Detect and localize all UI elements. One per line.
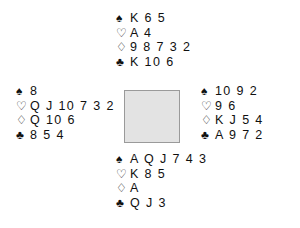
heart-icon: ♡ bbox=[201, 99, 213, 114]
north-clubs-cards: K 10 6 bbox=[128, 55, 175, 70]
west-spades-cards: 8 bbox=[28, 84, 38, 99]
spade-icon: ♠ bbox=[116, 11, 128, 26]
hand-north: ♠ K 6 5 ♡ A 4 ♢ 9 8 7 3 2 ♣ K 10 6 bbox=[116, 11, 191, 69]
north-spades-row: ♠ K 6 5 bbox=[116, 11, 191, 26]
heart-icon: ♡ bbox=[116, 26, 128, 41]
diamond-icon: ♢ bbox=[201, 113, 213, 128]
center-compass-box bbox=[124, 90, 180, 143]
east-hearts-cards: 9 6 bbox=[213, 99, 237, 114]
south-spades-cards: A Q J 7 4 3 bbox=[128, 152, 207, 167]
east-clubs-row: ♣ A 9 7 2 bbox=[201, 128, 264, 143]
spade-icon: ♠ bbox=[201, 84, 213, 99]
north-hearts-cards: A 4 bbox=[128, 26, 152, 41]
diamond-icon: ♢ bbox=[116, 40, 128, 55]
west-hearts-row: ♡ Q J 10 7 3 2 bbox=[16, 99, 115, 114]
north-diamonds-row: ♢ 9 8 7 3 2 bbox=[116, 40, 191, 55]
north-diamonds-cards: 9 8 7 3 2 bbox=[128, 40, 191, 55]
north-hearts-row: ♡ A 4 bbox=[116, 26, 191, 41]
club-icon: ♣ bbox=[201, 128, 213, 143]
west-clubs-row: ♣ 8 5 4 bbox=[16, 128, 115, 143]
east-hearts-row: ♡ 9 6 bbox=[201, 99, 264, 114]
west-spades-row: ♠ 8 bbox=[16, 84, 115, 99]
spade-icon: ♠ bbox=[116, 152, 128, 167]
west-hearts-cards: Q J 10 7 3 2 bbox=[28, 99, 115, 114]
west-diamonds-row: ♢ Q 10 6 bbox=[16, 113, 115, 128]
bridge-hand-diagram: ♠ K 6 5 ♡ A 4 ♢ 9 8 7 3 2 ♣ K 10 6 ♠ 8 ♡… bbox=[0, 0, 300, 228]
north-clubs-row: ♣ K 10 6 bbox=[116, 55, 191, 70]
south-diamonds-cards: A bbox=[128, 181, 140, 196]
spade-icon: ♠ bbox=[16, 84, 28, 99]
south-clubs-cards: Q J 3 bbox=[128, 196, 167, 211]
hand-east: ♠ 10 9 2 ♡ 9 6 ♢ K J 5 4 ♣ A 9 7 2 bbox=[201, 84, 264, 142]
north-spades-cards: K 6 5 bbox=[128, 11, 166, 26]
heart-icon: ♡ bbox=[16, 99, 28, 114]
south-spades-row: ♠ A Q J 7 4 3 bbox=[116, 152, 207, 167]
diamond-icon: ♢ bbox=[16, 113, 28, 128]
east-diamonds-cards: K J 5 4 bbox=[213, 113, 264, 128]
heart-icon: ♡ bbox=[116, 167, 128, 182]
hand-west: ♠ 8 ♡ Q J 10 7 3 2 ♢ Q 10 6 ♣ 8 5 4 bbox=[16, 84, 115, 142]
south-diamonds-row: ♢ A bbox=[116, 181, 207, 196]
west-diamonds-cards: Q 10 6 bbox=[28, 113, 76, 128]
hand-south: ♠ A Q J 7 4 3 ♡ K 8 5 ♢ A ♣ Q J 3 bbox=[116, 152, 207, 210]
east-spades-cards: 10 9 2 bbox=[213, 84, 258, 99]
east-clubs-cards: A 9 7 2 bbox=[213, 128, 264, 143]
east-diamonds-row: ♢ K J 5 4 bbox=[201, 113, 264, 128]
club-icon: ♣ bbox=[16, 128, 28, 143]
east-spades-row: ♠ 10 9 2 bbox=[201, 84, 264, 99]
diamond-icon: ♢ bbox=[116, 181, 128, 196]
south-clubs-row: ♣ Q J 3 bbox=[116, 196, 207, 211]
south-hearts-row: ♡ K 8 5 bbox=[116, 167, 207, 182]
south-hearts-cards: K 8 5 bbox=[128, 167, 166, 182]
club-icon: ♣ bbox=[116, 196, 128, 211]
club-icon: ♣ bbox=[116, 55, 128, 70]
west-clubs-cards: 8 5 4 bbox=[28, 128, 65, 143]
